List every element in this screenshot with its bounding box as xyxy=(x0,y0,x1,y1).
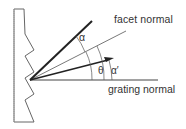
incident-ray xyxy=(30,21,92,80)
alpha-prime-label: α′ xyxy=(111,66,119,76)
grating-diagram: facet normal grating normal α θ α′ xyxy=(0,0,186,129)
facet-normal-label: facet normal xyxy=(114,14,173,25)
alpha-label: α xyxy=(79,32,85,43)
theta-label: θ xyxy=(98,66,104,76)
grating-profile xyxy=(14,9,34,122)
grating-normal-label: grating normal xyxy=(108,84,175,95)
